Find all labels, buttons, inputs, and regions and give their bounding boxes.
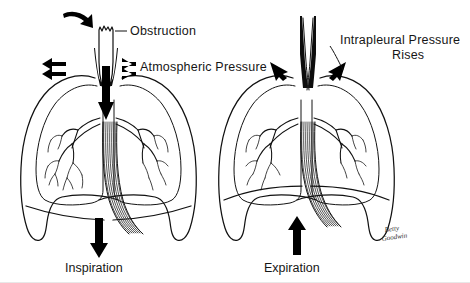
panel-inspiration: Inspiration Obstruction Atmospheric Pres… [21, 12, 267, 275]
inspiration-direction-arrow [90, 218, 108, 258]
atmos-arrow-inner-lower [122, 68, 136, 80]
bronchial-tree-left-exp [246, 118, 298, 190]
label-atmospheric-pressure: Atmospheric Pressure [140, 60, 267, 74]
atmos-arrow-outer-upper [42, 58, 66, 70]
diaphragm-left [26, 206, 104, 220]
mediastinal-band-right-panel [301, 122, 341, 227]
label-intrapleural-pressure-line1: Intrapleural Pressure [340, 33, 460, 47]
bronchial-tree-left [45, 118, 100, 190]
lung-outline-right-exp [312, 85, 379, 205]
label-intrapleural-pressure-line2: Rises [392, 48, 424, 62]
intrapleural-leader-line [330, 46, 343, 70]
figure-container: Inspiration Obstruction Atmospheric Pres… [0, 0, 470, 283]
intrapleural-arrow-right [328, 62, 346, 81]
bronchial-tree-right [116, 118, 168, 190]
bronchial-tree-right-exp [314, 118, 366, 185]
atmos-arrow-inner-upper [122, 58, 136, 70]
atmos-arrow-outer-lower [42, 68, 66, 80]
obstruction-curved-arrow [63, 12, 93, 28]
lung-outline-left-exp [234, 85, 301, 205]
intrapleural-arrow-left [270, 62, 288, 81]
mediastinal-band-left-panel [103, 122, 143, 234]
label-obstruction: Obstruction [130, 24, 196, 38]
lung-outline-left [36, 85, 103, 205]
expiration-direction-arrow [288, 216, 306, 255]
lung-diagram-svg: Inspiration Obstruction Atmospheric Pres… [0, 0, 470, 283]
lung-outline-right [114, 85, 181, 205]
trachea-collapsed-exp [300, 16, 316, 90]
caption-expiration: Expiration [264, 261, 320, 275]
panel-expiration: Expiration Intrapleural Pressure Rises B… [219, 16, 460, 275]
caption-inspiration: Inspiration [65, 261, 123, 275]
